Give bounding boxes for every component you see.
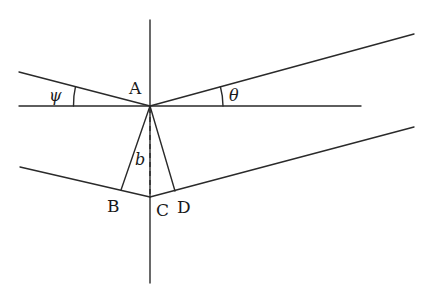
psi-label: ψ	[49, 86, 62, 105]
lower-right-line	[150, 127, 414, 197]
point-b-label: B	[107, 196, 120, 216]
length-b-label: b	[135, 150, 145, 169]
segment-ab	[121, 106, 150, 190]
theta-label: θ	[229, 86, 239, 105]
point-a-label: A	[128, 78, 142, 98]
psi-angle-arc	[73, 87, 75, 106]
geometry-diagram: ψ θ A b B C D	[0, 0, 437, 299]
point-d-label: D	[177, 197, 191, 217]
theta-angle-arc	[220, 87, 223, 106]
point-c-label: C	[156, 200, 169, 220]
upper-right-line	[150, 34, 414, 106]
segment-ad	[150, 106, 175, 191]
lower-left-line	[20, 167, 150, 197]
